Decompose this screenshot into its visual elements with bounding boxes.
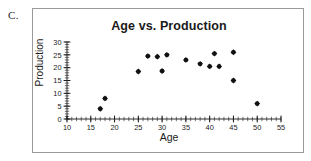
data-point bbox=[216, 63, 222, 69]
svg-text:20: 20 bbox=[110, 123, 118, 132]
data-point bbox=[164, 52, 170, 58]
data-point bbox=[154, 54, 160, 60]
data-point bbox=[207, 63, 213, 69]
x-axis: 10152025303540455055 bbox=[63, 116, 285, 132]
y-axis: 051015202530 bbox=[53, 38, 70, 124]
data-point bbox=[183, 57, 189, 63]
data-point bbox=[102, 96, 108, 102]
svg-text:0: 0 bbox=[57, 115, 61, 124]
svg-text:50: 50 bbox=[253, 123, 261, 132]
svg-text:10: 10 bbox=[53, 89, 61, 98]
scatter-plot: 051015202530 10152025303540455055 bbox=[33, 9, 305, 154]
data-point bbox=[231, 78, 237, 84]
data-point bbox=[254, 101, 260, 107]
svg-text:55: 55 bbox=[277, 123, 285, 132]
data-point bbox=[145, 53, 151, 59]
svg-text:25: 25 bbox=[134, 123, 142, 132]
data-point bbox=[97, 106, 103, 112]
svg-text:20: 20 bbox=[53, 63, 61, 72]
data-point bbox=[212, 51, 218, 57]
svg-text:30: 30 bbox=[158, 123, 166, 132]
svg-text:35: 35 bbox=[182, 123, 190, 132]
svg-text:10: 10 bbox=[63, 123, 71, 132]
figure-container: C. Age vs. Production Production Age 051… bbox=[0, 0, 311, 161]
svg-text:15: 15 bbox=[53, 76, 61, 85]
data-point bbox=[135, 69, 141, 75]
svg-text:15: 15 bbox=[87, 123, 95, 132]
svg-text:5: 5 bbox=[57, 102, 61, 111]
svg-text:45: 45 bbox=[229, 123, 237, 132]
data-point bbox=[159, 68, 165, 74]
chart-panel: Age vs. Production Production Age 051015… bbox=[32, 8, 304, 153]
data-point bbox=[197, 61, 203, 67]
data-point bbox=[231, 49, 237, 55]
panel-label: C. bbox=[8, 9, 19, 21]
svg-text:30: 30 bbox=[53, 38, 61, 47]
svg-text:40: 40 bbox=[206, 123, 214, 132]
data-points bbox=[97, 49, 260, 111]
svg-text:25: 25 bbox=[53, 51, 61, 60]
